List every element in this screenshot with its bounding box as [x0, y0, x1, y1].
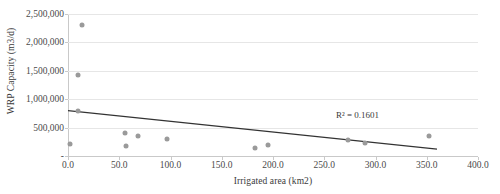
- x-axis-tick-label: 400.0: [456, 160, 500, 170]
- y-axis-tick-label: 1,500,000: [0, 66, 64, 76]
- x-axis-title: Irrigated area (km2): [68, 176, 478, 186]
- y-axis-tick-label: 500,000: [0, 123, 64, 133]
- x-axis-tick-label: 300.0: [354, 160, 398, 170]
- x-axis-tick-mark: [171, 157, 172, 160]
- data-point: [80, 23, 85, 28]
- y-axis-tick-label: 2,000,000: [0, 37, 64, 47]
- x-axis-tick-mark: [427, 157, 428, 160]
- plot-area: [68, 14, 478, 156]
- trendline: [68, 14, 478, 156]
- data-point: [426, 134, 431, 139]
- x-axis-tick-mark: [222, 157, 223, 160]
- data-point: [68, 142, 73, 147]
- y-axis-title: WRP Capacity (m3/d): [2, 0, 20, 168]
- data-point: [123, 131, 128, 136]
- x-axis-tick-label: 250.0: [302, 160, 346, 170]
- x-axis-tick-mark: [273, 157, 274, 160]
- x-axis-tick-mark: [119, 157, 120, 160]
- data-point: [76, 109, 81, 114]
- x-axis-tick-mark: [376, 157, 377, 160]
- y-axis-tick-label: 1,000,000: [0, 94, 64, 104]
- y-axis-tick-label: 2,500,000: [0, 9, 64, 19]
- x-axis-tick-label: 50.0: [97, 160, 141, 170]
- data-point: [252, 146, 257, 151]
- x-axis-tick-mark: [478, 157, 479, 160]
- data-point: [124, 143, 129, 148]
- data-point: [135, 134, 140, 139]
- r-squared-annotation: R² = 0.1601: [336, 110, 379, 120]
- data-point: [76, 73, 81, 78]
- data-point: [265, 143, 270, 148]
- x-axis-tick-label: 0.0: [46, 160, 90, 170]
- gridline: [68, 156, 478, 157]
- data-point: [165, 136, 170, 141]
- x-axis-tick-label: 200.0: [251, 160, 295, 170]
- data-point: [363, 140, 368, 145]
- x-axis-tick-label: 100.0: [149, 160, 193, 170]
- x-axis-tick-label: 350.0: [405, 160, 449, 170]
- x-axis-tick-mark: [68, 157, 69, 160]
- data-point: [345, 138, 350, 143]
- x-axis-tick-mark: [324, 157, 325, 160]
- x-axis-tick-label: 150.0: [200, 160, 244, 170]
- scatter-chart: WRP Capacity (m3/d) -500,0001,000,0001,5…: [0, 0, 500, 194]
